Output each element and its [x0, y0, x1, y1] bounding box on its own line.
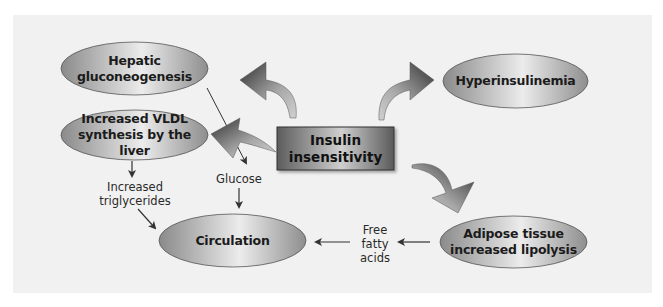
big-arrow-to-adipose	[412, 164, 474, 213]
label-triglycerides-line1: Increased	[95, 180, 175, 194]
label-ffa-line1: Free	[355, 223, 395, 237]
node-vldl-line1: Increased VLDL	[81, 111, 187, 127]
node-adipose-tissue: Adipose tissue increased lipolysis	[440, 216, 587, 268]
big-arrow-to-hyperinsulinemia	[379, 62, 434, 120]
node-hyperinsulinemia: Hyperinsulinemia	[443, 54, 588, 108]
arrow-triglycerides-to-circulation	[138, 209, 155, 228]
node-adipose-line1: Adipose tissue	[463, 226, 563, 242]
node-circulation-label: Circulation	[195, 233, 269, 249]
node-adipose-line2: increased lipolysis	[450, 242, 577, 258]
label-ffa-line3: acids	[355, 251, 395, 265]
node-increased-vldl: Increased VLDL synthesis by the liver	[61, 110, 208, 160]
node-hepatic-gluconeogenesis: Hepatic gluconeogenesis	[61, 42, 208, 95]
node-circulation: Circulation	[159, 214, 306, 267]
big-arrow-to-hepatic	[240, 62, 296, 118]
label-glucose: Glucose	[209, 172, 269, 186]
node-hyperinsulinemia-label: Hyperinsulinemia	[455, 73, 575, 89]
label-ffa-line2: fatty	[355, 237, 395, 251]
center-line1: Insulin	[310, 132, 361, 149]
node-hepatic-line1: Hepatic	[108, 53, 161, 69]
label-glucose-text: Glucose	[209, 172, 269, 186]
label-triglycerides-line2: triglycerides	[95, 194, 175, 208]
node-hepatic-line2: gluconeogenesis	[77, 69, 192, 85]
center-line2: insensitivity	[289, 149, 382, 166]
label-free-fatty-acids: Free fatty acids	[355, 223, 395, 265]
label-increased-triglycerides: Increased triglycerides	[95, 180, 175, 208]
node-vldl-line2: synthesis by the liver	[61, 127, 208, 159]
node-insulin-insensitivity: Insulin insensitivity	[277, 127, 394, 170]
big-arrow-to-vldl	[211, 118, 276, 158]
